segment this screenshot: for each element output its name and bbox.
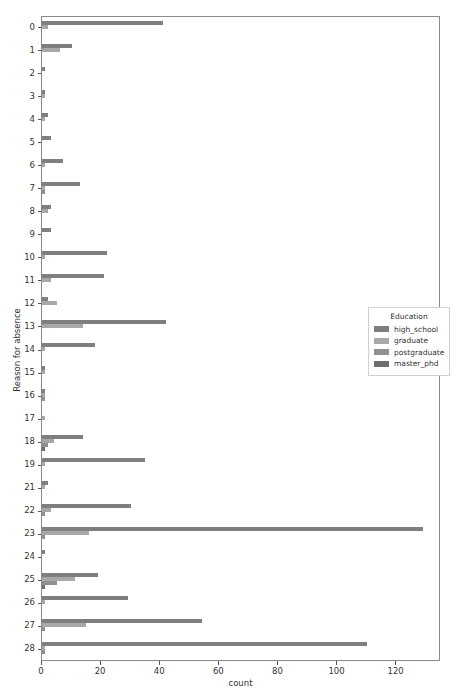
legend-swatch-icon	[374, 349, 389, 355]
bar	[42, 21, 163, 25]
y-tick-label: 15	[24, 367, 35, 378]
legend-item-postgraduate[interactable]: postgraduate	[374, 347, 444, 357]
y-tick-label: 1	[30, 45, 35, 56]
legend-swatch-icon	[374, 338, 389, 344]
y-tick-mark	[38, 326, 42, 327]
bar	[42, 650, 45, 654]
y-tick-mark	[38, 465, 42, 466]
legend-label: high_school	[394, 325, 438, 334]
y-tick-mark	[38, 234, 42, 235]
x-tick-mark	[395, 661, 396, 665]
y-tick-label: 10	[24, 252, 35, 263]
y-tick-mark	[38, 142, 42, 143]
bar	[42, 512, 45, 516]
y-tick-mark	[38, 96, 42, 97]
legend-item-graduate[interactable]: graduate	[374, 336, 444, 346]
bar	[42, 447, 45, 451]
y-tick-label: 16	[24, 390, 35, 401]
bar	[42, 585, 45, 589]
bar	[42, 209, 48, 213]
legend-items: high_schoolgraduatepostgraduatemaster_ph…	[374, 324, 444, 369]
bar	[42, 416, 45, 420]
y-tick-label: 26	[24, 597, 35, 608]
legend-title: Education	[374, 312, 444, 321]
legend-item-master_phd[interactable]: master_phd	[374, 359, 444, 369]
y-tick-mark	[38, 257, 42, 258]
y-tick-mark	[38, 27, 42, 28]
y-tick-mark	[38, 373, 42, 374]
x-tick-label: 0	[38, 666, 43, 677]
y-tick-label: 12	[24, 298, 35, 309]
bar	[42, 485, 45, 489]
bar	[42, 25, 48, 29]
bar	[42, 343, 95, 347]
y-tick-label: 27	[24, 620, 35, 631]
y-tick-mark	[38, 442, 42, 443]
bar	[42, 301, 57, 305]
x-tick-mark	[218, 661, 219, 665]
bar	[42, 550, 45, 554]
legend-swatch-icon	[374, 326, 389, 332]
y-tick-mark	[38, 419, 42, 420]
bar	[42, 117, 45, 121]
x-tick-mark	[41, 661, 42, 665]
x-tick-mark	[100, 661, 101, 665]
bar	[42, 623, 86, 627]
y-tick-label: 0	[30, 22, 35, 33]
y-tick-label: 18	[24, 436, 35, 447]
bar	[42, 274, 104, 278]
x-tick-mark	[159, 661, 160, 665]
bar	[42, 531, 89, 535]
y-tick-mark	[38, 188, 42, 189]
bar	[42, 163, 45, 167]
y-tick-label: 9	[30, 229, 35, 240]
y-tick-label: 4	[30, 114, 35, 125]
legend: Education high_schoolgraduatepostgraduat…	[368, 307, 450, 376]
y-tick-mark	[38, 557, 42, 558]
y-tick-label: 19	[24, 459, 35, 470]
legend-label: graduate	[394, 336, 428, 345]
y-tick-label: 8	[30, 206, 35, 217]
y-tick-mark	[38, 280, 42, 281]
y-tick-mark	[38, 303, 42, 304]
bar	[42, 190, 45, 194]
bar	[42, 324, 83, 328]
bar	[42, 458, 145, 462]
x-tick-label: 60	[213, 666, 224, 677]
bar	[42, 159, 63, 163]
legend-item-high_school[interactable]: high_school	[374, 324, 444, 334]
bar	[42, 600, 45, 604]
bar	[42, 136, 51, 140]
bar	[42, 596, 128, 600]
x-tick-label: 40	[154, 666, 165, 677]
y-tick-label: 13	[24, 321, 35, 332]
matplotlib-figure: 0123456789101112131415161718192122232425…	[0, 0, 460, 700]
y-tick-mark	[38, 350, 42, 351]
y-tick-label: 17	[24, 413, 35, 424]
x-tick-mark	[336, 661, 337, 665]
x-tick-label: 100	[328, 666, 344, 677]
y-tick-label: 24	[24, 551, 35, 562]
y-axis-label: Reason for absence	[12, 0, 24, 700]
y-tick-mark	[38, 119, 42, 120]
bar	[42, 48, 60, 52]
bar	[42, 642, 367, 646]
y-tick-mark	[38, 649, 42, 650]
bar	[42, 255, 45, 259]
bar	[42, 627, 45, 631]
legend-swatch-icon	[374, 361, 389, 367]
bar	[42, 397, 45, 401]
y-tick-mark	[38, 534, 42, 535]
y-tick-mark	[38, 511, 42, 512]
x-tick-label: 120	[388, 666, 404, 677]
y-tick-mark	[38, 211, 42, 212]
y-tick-mark	[38, 626, 42, 627]
y-tick-mark	[38, 580, 42, 581]
bar	[42, 462, 45, 466]
bar	[42, 535, 45, 539]
x-tick-label: 80	[272, 666, 283, 677]
y-tick-label: 25	[24, 574, 35, 585]
y-tick-label: 3	[30, 91, 35, 102]
bar	[42, 67, 45, 71]
bar	[42, 504, 131, 508]
